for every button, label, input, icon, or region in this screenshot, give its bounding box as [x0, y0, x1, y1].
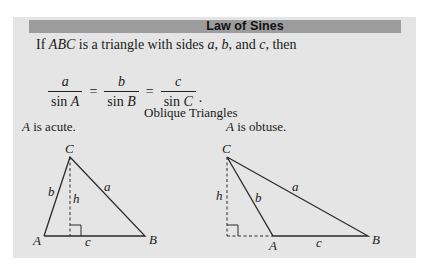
acute-triangle [44, 157, 145, 236]
side-label-b: b [48, 184, 55, 199]
right-angle-marker [227, 225, 238, 236]
vertex-label-b: B [149, 232, 157, 247]
side-label-c: c [316, 235, 322, 250]
vertex-label-c: C [222, 141, 231, 156]
side-label-c: c [85, 234, 91, 249]
triangle-outline [44, 157, 145, 236]
side-label-b: b [255, 190, 262, 205]
page: Law of Sines If ABC is a triangle with s… [0, 0, 431, 274]
height-label-h: h [73, 191, 80, 206]
triangle-outline [227, 157, 368, 236]
side-label-a: a [104, 179, 111, 194]
vertex-label-a: A [268, 238, 277, 253]
height-label-h: h [216, 188, 223, 203]
right-angle-marker [70, 225, 81, 236]
obtuse-triangle [227, 157, 368, 236]
vertex-label-c: C [65, 141, 74, 156]
acute-labels: C A B b a c h [32, 141, 157, 249]
side-label-a: a [292, 179, 299, 194]
vertex-label-b: B [372, 232, 380, 247]
oblique-triangles-diagram: C A B b a c h C A B b a c h [0, 0, 431, 274]
vertex-label-a: A [32, 233, 41, 248]
